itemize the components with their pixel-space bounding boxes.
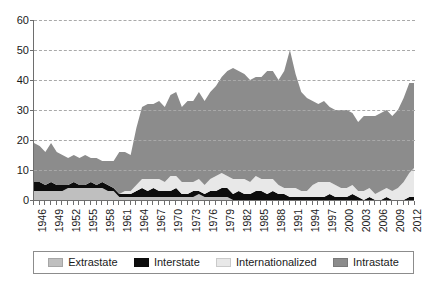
x-tick-mark — [39, 201, 40, 205]
gridline — [34, 80, 415, 81]
x-tick-label: 1952 — [71, 209, 82, 232]
x-tick-label: 1973 — [191, 209, 202, 232]
gridline — [34, 50, 415, 51]
x-tick-mark — [61, 201, 62, 205]
legend-item-interstate[interactable]: Interstate — [134, 257, 200, 268]
x-tick-label: 1988 — [276, 209, 287, 232]
stacked-area-chart: 0102030405060 19461949195219551958196119… — [0, 0, 427, 286]
y-tick-mark — [30, 170, 34, 171]
x-tick-mark — [164, 201, 165, 205]
y-tick-mark — [30, 80, 34, 81]
x-tick-label: 1982 — [242, 209, 253, 232]
x-tick-mark — [289, 201, 290, 205]
legend-item-intrastate[interactable]: Intrastate — [333, 257, 399, 268]
x-tick-label: 1958 — [105, 209, 116, 232]
x-tick-label: 1967 — [156, 209, 167, 232]
legend-item-extrastate[interactable]: Extrastate — [48, 257, 118, 268]
chart-legend: ExtrastateInterstateInternationalizedInt… — [33, 251, 414, 274]
x-tick-mark — [192, 201, 193, 205]
x-tick-mark — [141, 201, 142, 205]
x-tick-mark — [238, 201, 239, 205]
x-tick-label: 2006 — [378, 209, 389, 232]
x-tick-mark — [187, 201, 188, 205]
x-tick-mark — [78, 201, 79, 205]
legend-swatch-icon — [216, 258, 231, 267]
x-tick-mark — [90, 201, 91, 205]
x-tick-mark — [255, 201, 256, 205]
x-tick-label: 2003 — [361, 209, 372, 232]
x-tick-mark — [101, 201, 102, 205]
x-tick-mark — [403, 201, 404, 205]
x-tick-mark — [124, 201, 125, 205]
x-tick-label: 1991 — [293, 209, 304, 232]
x-tick-label: 1994 — [310, 209, 321, 232]
x-tick-mark — [215, 201, 216, 205]
x-tick-mark — [351, 201, 352, 205]
x-tick-mark — [169, 201, 170, 205]
x-tick-mark — [266, 201, 267, 205]
x-tick-label: 1949 — [54, 209, 65, 232]
x-tick-mark — [204, 201, 205, 205]
x-tick-mark — [283, 201, 284, 205]
x-tick-mark — [260, 201, 261, 205]
y-tick-label: 10 — [17, 165, 29, 176]
x-tick-mark — [408, 201, 409, 205]
legend-swatch-icon — [134, 258, 149, 267]
x-tick-mark — [391, 201, 392, 205]
x-tick-mark — [226, 201, 227, 205]
y-tick-label: 30 — [17, 105, 29, 116]
legend-swatch-icon — [333, 258, 348, 267]
gridline — [34, 140, 415, 141]
x-tick-mark — [147, 201, 148, 205]
x-tick-mark — [329, 201, 330, 205]
gridline — [34, 20, 415, 21]
x-tick-mark — [175, 201, 176, 205]
x-tick-mark — [414, 201, 415, 205]
y-tick-label: 0 — [23, 195, 29, 206]
x-tick-mark — [249, 201, 250, 205]
x-tick-mark — [363, 201, 364, 205]
y-tick-mark — [30, 110, 34, 111]
x-tick-label: 1976 — [208, 209, 219, 232]
plot-frame: 0102030405060 — [33, 20, 414, 200]
x-tick-mark — [300, 201, 301, 205]
x-tick-mark — [306, 201, 307, 205]
x-tick-mark — [56, 201, 57, 205]
x-tick-mark — [84, 201, 85, 205]
x-tick-mark — [33, 201, 34, 205]
x-tick-mark — [357, 201, 358, 205]
legend-swatch-icon — [48, 258, 63, 267]
x-tick-mark — [232, 201, 233, 205]
legend-item-internationalized[interactable]: Internationalized — [216, 257, 317, 268]
y-tick-label: 40 — [17, 75, 29, 86]
x-tick-mark — [44, 201, 45, 205]
x-tick-label: 1955 — [88, 209, 99, 232]
x-tick-label: 2009 — [395, 209, 406, 232]
x-tick-mark — [198, 201, 199, 205]
x-tick-mark — [323, 201, 324, 205]
x-tick-mark — [374, 201, 375, 205]
x-tick-mark — [50, 201, 51, 205]
x-tick-mark — [369, 201, 370, 205]
x-tick-label: 1979 — [225, 209, 236, 232]
x-tick-mark — [334, 201, 335, 205]
x-tick-mark — [96, 201, 97, 205]
legend-label: Intrastate — [353, 257, 399, 268]
x-tick-mark — [73, 201, 74, 205]
x-tick-mark — [243, 201, 244, 205]
x-tick-label: 1985 — [259, 209, 270, 232]
x-tick-mark — [107, 201, 108, 205]
y-tick-mark — [30, 140, 34, 141]
x-tick-label: 1961 — [122, 209, 133, 232]
x-tick-label: 1970 — [173, 209, 184, 232]
x-tick-mark — [346, 201, 347, 205]
x-tick-mark — [295, 201, 296, 205]
y-tick-label: 50 — [17, 45, 29, 56]
x-tick-mark — [67, 201, 68, 205]
y-tick-mark — [30, 50, 34, 51]
x-tick-mark — [152, 201, 153, 205]
x-tick-mark — [312, 201, 313, 205]
y-tick-label: 60 — [17, 15, 29, 26]
area-series-intrastate — [34, 50, 414, 194]
x-tick-mark — [135, 201, 136, 205]
